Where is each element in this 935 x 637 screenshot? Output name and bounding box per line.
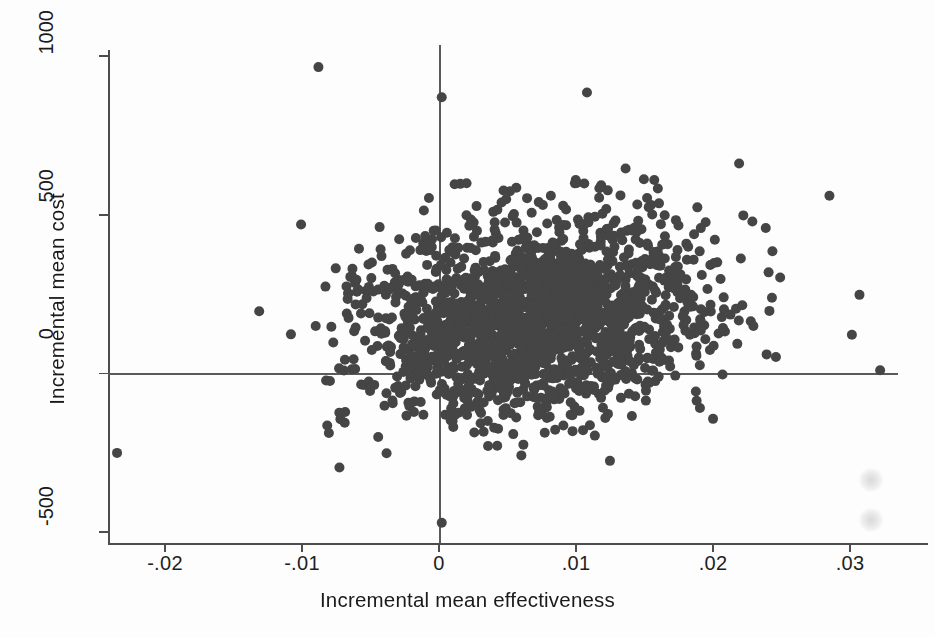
x-tick-label: -.02 [125, 552, 205, 575]
x-tick-.03 [849, 543, 851, 552]
x-tick-label: -.01 [262, 552, 342, 575]
y-tick-label: 1000 [36, 10, 56, 102]
x-tick--.01 [301, 543, 303, 552]
scan-artifact-smudge [858, 508, 884, 532]
reference-line-x-zero [439, 45, 441, 543]
x-tick-label: .03 [810, 552, 890, 575]
scatter-points-layer [0, 0, 935, 637]
x-tick-label: .01 [536, 552, 616, 575]
scan-artifact-smudge [858, 468, 884, 492]
y-tick-label-wrap: -500 [0, 522, 92, 542]
x-axis-line [108, 543, 928, 545]
cost-effectiveness-scatter-figure: -50005001000 -.02-.010.01.02.03 Incremen… [0, 0, 935, 637]
y-axis-title: Incremental mean cost [45, 134, 69, 464]
y-tick-label-wrap: 1000 [0, 46, 92, 66]
x-axis-title: Incremental mean effectiveness [0, 588, 935, 612]
x-tick-0 [438, 543, 440, 552]
reference-line-y-zero [108, 373, 898, 375]
plot-area [0, 0, 935, 637]
y-tick-label: -500 [36, 486, 56, 578]
x-tick-.02 [712, 543, 714, 552]
x-tick-label: .02 [673, 552, 753, 575]
y-tick--500 [99, 531, 109, 533]
y-axis-line [108, 50, 110, 544]
x-tick-.01 [575, 543, 577, 552]
y-tick-1000 [99, 55, 109, 57]
x-tick-label: 0 [399, 552, 479, 575]
x-tick--.02 [164, 543, 166, 552]
y-tick-500 [99, 214, 109, 216]
